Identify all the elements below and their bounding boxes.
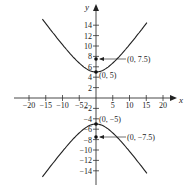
x-tick-extra-label: 2 bbox=[84, 101, 88, 110]
y-tick-label: 12 bbox=[84, 32, 92, 41]
y-tick-label: −10 bbox=[79, 146, 92, 155]
x-tick-label: 20 bbox=[159, 101, 167, 110]
y-axis-arrow-icon bbox=[93, 4, 99, 11]
y-tick-label: −8 bbox=[83, 136, 92, 145]
x-tick-label: 5 bbox=[111, 101, 115, 110]
hyperbola-chart: x y −20−15−10−55101520 1412108642−2−4−6−… bbox=[0, 0, 190, 187]
focus-point bbox=[94, 57, 98, 61]
y-tick-label: −14 bbox=[79, 167, 92, 176]
x-tick-label: −5 bbox=[75, 101, 84, 110]
point-label: (0, 5) bbox=[99, 71, 117, 80]
x-ticks: −20−15−10−55101520 bbox=[23, 95, 167, 110]
y-tick-label: 2 bbox=[88, 84, 92, 93]
vertex-point bbox=[94, 122, 98, 126]
x-axis-label: x bbox=[178, 95, 183, 105]
y-tick-label: −12 bbox=[79, 156, 92, 165]
point-label: (0, −7.5) bbox=[127, 133, 155, 142]
x-tick-label: −10 bbox=[56, 101, 69, 110]
x-tick-label: −15 bbox=[39, 101, 52, 110]
vertex-point bbox=[94, 70, 98, 74]
point-label: (0, 7.5) bbox=[127, 55, 151, 64]
y-tick-label: 4 bbox=[88, 73, 92, 82]
arrowhead-icon bbox=[99, 135, 104, 139]
y-tick-label: 10 bbox=[84, 42, 92, 51]
x-tick-label: 15 bbox=[142, 101, 150, 110]
x-tick-label: −20 bbox=[23, 101, 36, 110]
x-tick-label: 10 bbox=[126, 101, 134, 110]
point-label: (0, −5) bbox=[99, 115, 121, 124]
y-axis-label: y bbox=[84, 2, 89, 12]
y-tick-label: 14 bbox=[84, 21, 92, 30]
y-tick-label: 8 bbox=[88, 52, 92, 61]
focus-point bbox=[94, 135, 98, 139]
axes bbox=[14, 10, 172, 185]
y-tick-label: −4 bbox=[83, 115, 92, 124]
x-axis-arrow-icon bbox=[170, 95, 177, 101]
arrowhead-icon bbox=[99, 57, 104, 61]
